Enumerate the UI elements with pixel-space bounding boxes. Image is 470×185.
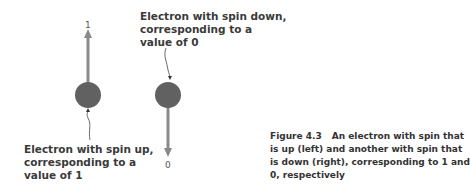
spin-down-arrow xyxy=(164,106,172,157)
spin-up-label: Electron with spin up, corresponding to … xyxy=(24,143,154,182)
figure-caption: Figure 4.3An electron with spin that is … xyxy=(270,130,470,182)
spin-down-label: Electron with spin down, corresponding t… xyxy=(140,10,287,49)
pointer-spin-down xyxy=(165,48,170,77)
pointer-spin-up xyxy=(87,111,90,140)
value-label-0: 0 xyxy=(165,160,171,170)
electron-spin-down xyxy=(155,82,181,108)
figure-number: Figure 4.3 xyxy=(270,131,322,141)
value-label-1: 1 xyxy=(85,20,91,30)
electron-spin-up xyxy=(75,82,101,108)
spin-up-arrow xyxy=(84,29,92,84)
